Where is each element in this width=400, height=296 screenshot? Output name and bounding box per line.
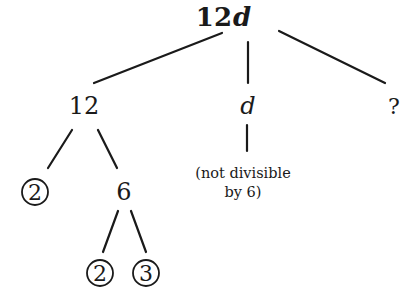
root-node: 12 d (196, 2, 251, 32)
factor-tree-diagram: 12 d 12 d ? (not divisible by 6) 2 6 2 3 (0, 0, 400, 296)
edge-root-to-unknown (279, 31, 385, 83)
edge-6-to-3 (131, 211, 146, 252)
prime-factor-2-circled: 2 (22, 179, 48, 205)
node-12: 12 (69, 92, 100, 120)
root-variable: d (233, 2, 251, 32)
d-note-line2: by 6) (225, 184, 262, 200)
edge-12-to-2 (48, 130, 72, 168)
factor-2: 2 (28, 180, 42, 205)
node-d: d (240, 92, 255, 120)
factor-2b: 2 (93, 261, 107, 286)
node-6: 6 (116, 178, 131, 206)
root-number: 12 (196, 2, 232, 32)
d-note-line1: (not divisible (195, 165, 291, 181)
node-unknown: ? (388, 94, 400, 119)
factor-3: 3 (139, 261, 153, 286)
prime-factor-3-circled: 3 (133, 260, 159, 286)
prime-factor-2-circled-b: 2 (87, 260, 113, 286)
edge-12-to-6 (98, 130, 117, 168)
edge-root-to-12 (94, 33, 222, 83)
edge-6-to-2 (103, 211, 118, 252)
